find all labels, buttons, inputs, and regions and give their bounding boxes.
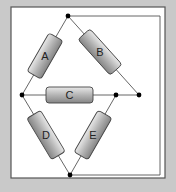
node-center-right (114, 93, 119, 98)
node-right (137, 93, 142, 98)
node-bottom (68, 173, 73, 178)
resistor-a-label: A (41, 50, 49, 62)
resistor-c-label: C (66, 89, 74, 101)
resistor-b-label: B (96, 46, 103, 58)
node-left (20, 93, 25, 98)
resistor-e-label: E (89, 129, 96, 141)
bridge-circuit-diagram: A B C D E (0, 0, 176, 192)
resistor-d-label: D (42, 129, 50, 141)
node-top (66, 14, 71, 19)
